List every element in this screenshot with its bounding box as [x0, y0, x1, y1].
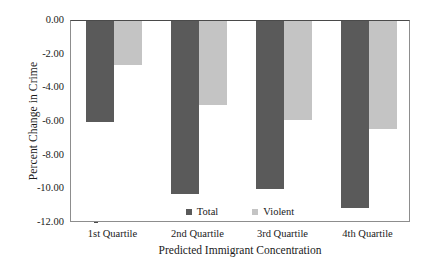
bar-group [71, 21, 156, 221]
legend-item-violent[interactable]: Violent [252, 206, 294, 217]
bar-total-1[interactable] [86, 21, 114, 122]
bar-violent-1[interactable] [114, 21, 142, 65]
bar-violent-2[interactable] [199, 21, 227, 105]
bar-total-4[interactable] [341, 21, 369, 208]
chart-legend: TotalViolent [71, 206, 409, 217]
plot-area: TotalViolent [70, 20, 410, 222]
y-tick-mark [94, 222, 98, 223]
x-tick-label: 1st Quartile [70, 227, 155, 241]
y-tick-label: -2.00 [28, 48, 64, 60]
legend-swatch-icon [252, 209, 258, 215]
y-tick-label: 0.00 [28, 14, 64, 26]
y-tick-label: -12.00 [28, 216, 64, 228]
x-axis-tick-labels: 1st Quartile2nd Quartile3rd Quartile4th … [70, 227, 410, 243]
y-tick-label: -10.00 [28, 182, 64, 194]
x-axis-title: Predicted Immigrant Concentration [70, 243, 410, 257]
x-tick-label: 4th Quartile [325, 227, 410, 241]
bars-layer [71, 21, 409, 221]
legend-swatch-icon [186, 209, 192, 215]
y-tick-label: -8.00 [28, 149, 64, 161]
x-tick-label: 3rd Quartile [240, 227, 325, 241]
bar-total-3[interactable] [256, 21, 284, 189]
bar-group [156, 21, 241, 221]
bar-violent-4[interactable] [369, 21, 397, 129]
bar-total-2[interactable] [171, 21, 199, 194]
legend-label: Total [197, 206, 218, 217]
bar-chart-figure: Percent Change in Crime 0.00-2.00-4.00-6… [0, 0, 421, 265]
bar-group [241, 21, 326, 221]
y-tick-label: -4.00 [28, 81, 64, 93]
y-tick-label: -6.00 [28, 115, 64, 127]
y-axis-tick-labels: 0.00-2.00-4.00-6.00-8.00-10.00-12.00 [28, 14, 64, 222]
bar-group [326, 21, 411, 221]
bar-violent-3[interactable] [284, 21, 312, 120]
legend-item-total[interactable]: Total [186, 206, 218, 217]
legend-label: Violent [263, 206, 294, 217]
x-tick-label: 2nd Quartile [155, 227, 240, 241]
